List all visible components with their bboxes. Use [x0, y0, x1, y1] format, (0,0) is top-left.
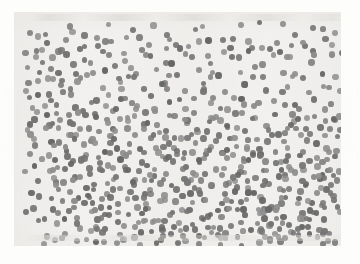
scatter-point: [238, 220, 244, 226]
scatter-point: [323, 118, 328, 123]
scatter-point: [328, 101, 334, 107]
scatter-point: [54, 111, 59, 116]
scatter-point: [240, 228, 246, 234]
scatter-point: [171, 113, 177, 119]
scatter-point: [127, 189, 134, 196]
scatter-point: [208, 115, 214, 121]
scatter-point: [50, 76, 56, 82]
scatter-point: [27, 95, 33, 101]
scatter-point: [259, 228, 266, 235]
scatter-point: [222, 89, 228, 95]
scatter-point: [280, 220, 286, 226]
scatter-point: [265, 206, 272, 213]
scatter-point: [281, 188, 287, 194]
scatter-point: [69, 29, 76, 36]
scatter-point: [66, 208, 71, 213]
scatter-point: [332, 239, 339, 246]
scatter-point: [84, 237, 89, 242]
scatter-point: [189, 149, 196, 156]
scatter-point: [250, 74, 256, 80]
scatter-point: [70, 121, 76, 127]
scatter-point: [164, 46, 169, 51]
scatter-point: [55, 48, 62, 55]
scatter-point: [296, 106, 302, 112]
scatter-point: [60, 198, 66, 204]
scatter-point: [91, 187, 97, 193]
scatter-point: [234, 144, 239, 149]
scatter-point: [196, 241, 202, 246]
scatter-point: [127, 141, 132, 146]
scatter-point: [209, 230, 214, 235]
scatter-point: [289, 43, 295, 49]
scatter-point: [224, 123, 230, 129]
scatter-point: [245, 178, 250, 183]
scatter-point: [251, 190, 258, 197]
scatter-point: [193, 27, 198, 32]
scatter-point: [297, 188, 304, 195]
scatter-point: [257, 20, 262, 25]
scatter-point: [128, 65, 134, 71]
scatter-point: [131, 74, 137, 80]
scatter-point: [285, 126, 290, 131]
scatter-point: [244, 197, 249, 202]
scatter-point: [116, 76, 122, 82]
scatter-point: [107, 140, 113, 146]
scatter-point: [272, 231, 278, 237]
scatter-point: [136, 34, 143, 41]
scatter-point: [30, 105, 36, 111]
scatter-point: [102, 38, 109, 45]
scatter-point: [250, 116, 255, 121]
scatter-point: [275, 131, 281, 137]
scatter-point: [327, 167, 332, 172]
scatter-point: [162, 134, 168, 140]
scatter-point: [224, 106, 231, 113]
scatter-point: [112, 128, 118, 134]
scatter-point: [187, 190, 193, 196]
scatter-point: [49, 196, 55, 202]
scatter-point: [218, 242, 224, 246]
scatter-point: [227, 45, 234, 52]
scatter-point: [192, 226, 198, 232]
scatter-point: [90, 200, 95, 205]
scatter-point: [35, 92, 41, 98]
scatter-point: [230, 152, 235, 157]
scatter-point: [311, 52, 316, 57]
scatter-point: [232, 188, 239, 195]
scatter-point: [22, 50, 28, 56]
scatter-point: [136, 220, 142, 226]
scatter-point: [152, 173, 157, 178]
scatter-point: [307, 131, 312, 136]
scatter-point: [279, 89, 286, 96]
scatter-point: [57, 117, 63, 123]
scatter-point: [117, 186, 122, 191]
scatter-point: [252, 64, 258, 70]
scatter-point: [334, 177, 340, 183]
scatter-point: [264, 138, 271, 145]
scatter-point: [133, 106, 139, 112]
scatter-point: [49, 54, 56, 61]
scatter-point: [216, 132, 223, 139]
scatter-point: [231, 135, 237, 141]
scatter-point: [161, 192, 167, 198]
scatter-point: [239, 110, 245, 116]
scatter-point: [120, 236, 127, 243]
scatter-point: [39, 47, 46, 54]
scatter-point: [98, 204, 105, 211]
scatter-point: [314, 155, 320, 161]
scatter-point: [115, 201, 121, 207]
scatter-point: [263, 87, 270, 94]
scatter-point: [324, 157, 329, 162]
scatter-point: [241, 81, 248, 88]
scatter-point: [159, 81, 164, 86]
scatter-point: [115, 210, 120, 215]
scatter-point: [330, 193, 336, 199]
scatter-point: [168, 231, 174, 237]
scatter-point: [34, 48, 39, 53]
scatter-point: [66, 112, 73, 119]
scatter-point: [92, 140, 98, 146]
scatter-point: [56, 125, 62, 131]
scatter-point: [193, 140, 199, 146]
scatter-point: [144, 163, 149, 168]
scatter-point: [32, 163, 38, 169]
scatter-point: [238, 70, 243, 75]
